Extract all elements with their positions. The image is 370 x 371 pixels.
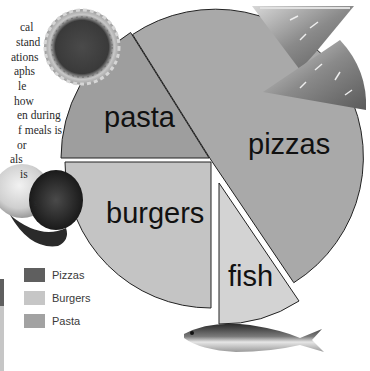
pasta-photo xyxy=(44,9,120,85)
text-line: how xyxy=(14,94,34,109)
text-line: ations xyxy=(11,50,38,65)
text-line: or xyxy=(17,138,27,153)
text-line: aphs xyxy=(14,64,35,79)
bar-fragment-dark xyxy=(0,279,4,306)
legend-label-burgers: Burgers xyxy=(52,291,91,305)
text-line: le xyxy=(18,79,26,94)
text-line: is xyxy=(20,167,28,182)
slice-label-fish: fish xyxy=(228,260,273,292)
slice-label-pizzas: pizzas xyxy=(248,128,330,160)
slice-label-burgers: burgers xyxy=(106,197,204,229)
legend-swatch-burgers xyxy=(24,291,45,305)
text-line: en during xyxy=(17,108,61,123)
legend-label-pasta: Pasta xyxy=(52,314,80,328)
text-line: f meals is xyxy=(18,123,62,138)
text-line: cal xyxy=(20,20,33,35)
text-line: als xyxy=(10,152,23,167)
slice-label-pasta: pasta xyxy=(104,101,176,133)
legend-label-pizzas: Pizzas xyxy=(52,268,84,282)
legend-swatch-pizzas xyxy=(24,268,45,282)
text-line: stand xyxy=(16,35,40,50)
text-line: s. xyxy=(34,196,40,211)
legend-swatch-pasta xyxy=(24,314,45,328)
bar-fragment-light xyxy=(0,306,4,371)
pie-slice-burgers xyxy=(65,162,211,308)
fish-photo xyxy=(184,324,324,352)
burger-photo xyxy=(0,164,83,246)
